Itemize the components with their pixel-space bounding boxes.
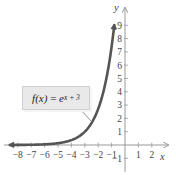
y-tick-label: 8: [117, 34, 122, 44]
x-tick-label: −4: [66, 150, 76, 160]
x-tick-label: 1: [136, 150, 141, 160]
y-tick-label: 4: [117, 87, 122, 97]
function-curve: [10, 25, 115, 145]
y-tick-label: 6: [117, 61, 122, 71]
x-tick-label: −3: [80, 150, 90, 160]
function-exponent: x + 3: [64, 93, 80, 102]
function-label-callout: f(x) = ex + 3: [22, 86, 90, 110]
x-tick-label: −8: [13, 150, 23, 160]
y-tick-label: 7: [117, 47, 122, 57]
y-axis-label: y: [113, 2, 119, 13]
y-tick-label: 5: [117, 74, 122, 84]
y-axis-ticks: −1123456789: [112, 21, 128, 164]
function-equals: =: [47, 92, 59, 104]
x-tick-label: 2: [149, 150, 154, 160]
y-tick-label: −1: [112, 154, 122, 164]
x-tick-label: −7: [26, 150, 36, 160]
x-tick-label: −5: [53, 150, 63, 160]
callout-leader: [80, 109, 92, 122]
x-tick-label: −6: [40, 150, 50, 160]
y-tick-label: 3: [117, 100, 122, 110]
y-tick-label: 1: [117, 127, 122, 137]
x-tick-label: −2: [93, 150, 103, 160]
y-tick-label: 9: [117, 21, 122, 31]
y-tick-label: 2: [117, 114, 122, 124]
function-lhs: f(x): [32, 92, 47, 104]
x-axis-label: x: [159, 151, 165, 162]
